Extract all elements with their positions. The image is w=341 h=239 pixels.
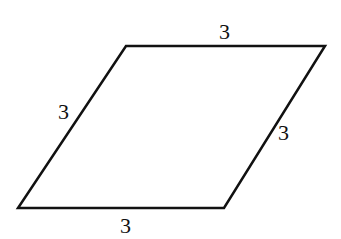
- side-label-left: 3: [58, 99, 69, 124]
- side-label-top: 3: [219, 19, 230, 44]
- side-label-bottom: 3: [120, 213, 131, 238]
- rhombus-diagram: 3 3 3 3: [0, 0, 341, 239]
- side-label-right: 3: [278, 120, 289, 145]
